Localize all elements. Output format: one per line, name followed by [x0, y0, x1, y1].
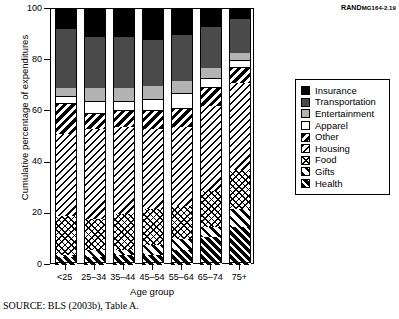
x-axis-tick [239, 265, 240, 270]
bar-segment-other[interactable] [55, 104, 77, 135]
bar-segment-housing[interactable] [142, 129, 164, 208]
bar-segment-health[interactable] [113, 255, 135, 265]
bar-segment-other[interactable] [171, 109, 193, 127]
legend-item-other[interactable]: Other [301, 131, 385, 143]
bar-segment-food[interactable] [171, 206, 193, 239]
plot-area [50, 8, 254, 264]
y-axis-tick-label: 40 [18, 157, 42, 166]
bar-segment-other[interactable] [142, 111, 164, 129]
bar-segment-transportation[interactable] [142, 40, 164, 86]
legend-swatch-entertainment-icon [301, 109, 310, 118]
legend-item-health[interactable]: Health [301, 178, 385, 190]
legend-label: Gifts [315, 167, 335, 177]
bar-segment-apparel[interactable] [229, 60, 251, 68]
bar-segment-entertainment[interactable] [171, 81, 193, 94]
bar-segment-gifts[interactable] [229, 209, 251, 227]
bar-segment-food[interactable] [200, 191, 222, 227]
bar-segment-entertainment[interactable] [229, 53, 251, 61]
bar-segment-entertainment[interactable] [142, 86, 164, 99]
bar-segment-entertainment[interactable] [55, 88, 77, 96]
bar-2534[interactable] [84, 9, 106, 263]
bar-segment-transportation[interactable] [55, 29, 77, 88]
bar-segment-health[interactable] [142, 255, 164, 265]
bar-segment-other[interactable] [84, 114, 106, 129]
x-axis-tick [210, 265, 211, 270]
legend-item-gifts[interactable]: Gifts [301, 166, 385, 178]
legend-item-apparel[interactable]: Apparel [301, 120, 385, 132]
bar-segment-insurance[interactable] [55, 9, 77, 29]
bar-segment-food[interactable] [55, 216, 77, 254]
bar-segment-apparel[interactable] [113, 101, 135, 111]
bar-segment-transportation[interactable] [113, 37, 135, 88]
legend-item-insurance[interactable]: Insurance [301, 85, 385, 97]
bar-segment-food[interactable] [84, 219, 106, 250]
bar-segment-apparel[interactable] [55, 96, 77, 104]
bar-segment-health[interactable] [84, 257, 106, 265]
bar-3544[interactable] [113, 9, 135, 263]
bar-25[interactable] [55, 9, 77, 263]
x-axis-title: Age group [50, 286, 254, 297]
bar-5564[interactable] [171, 9, 193, 263]
legend-swatch-insurance-icon [301, 86, 310, 95]
bar-segment-housing[interactable] [200, 106, 222, 190]
legend-item-transportation[interactable]: Transportation [301, 97, 385, 109]
legend-item-housing[interactable]: Housing [301, 143, 385, 155]
bar-segment-gifts[interactable] [55, 255, 77, 258]
bar-segment-food[interactable] [113, 214, 135, 250]
bar-segment-housing[interactable] [229, 83, 251, 170]
bar-segment-housing[interactable] [171, 127, 193, 206]
bar-segment-food[interactable] [142, 209, 164, 245]
bar-segment-health[interactable] [229, 227, 251, 265]
bar-segment-gifts[interactable] [171, 239, 193, 249]
bar-segment-other[interactable] [229, 68, 251, 83]
bar-segment-transportation[interactable] [200, 27, 222, 68]
bar-4554[interactable] [142, 9, 164, 263]
bar-segment-housing[interactable] [55, 134, 77, 216]
legend-item-entertainment[interactable]: Entertainment [301, 108, 385, 120]
bar-segment-gifts[interactable] [113, 250, 135, 255]
bar-segment-apparel[interactable] [200, 78, 222, 88]
bar-segment-transportation[interactable] [171, 35, 193, 81]
bar-segment-apparel[interactable] [171, 93, 193, 108]
y-axis-tick [44, 264, 50, 265]
bar-segment-apparel[interactable] [84, 101, 106, 114]
source-note: SOURCE: BLS (2003b), Table A. [3, 300, 139, 311]
bar-segment-insurance[interactable] [171, 9, 193, 35]
bar-segment-insurance[interactable] [113, 9, 135, 37]
bar-6574[interactable] [200, 9, 222, 263]
legend-swatch-food-icon [301, 156, 310, 165]
y-axis-tick-label: 0 [18, 260, 42, 269]
bar-segment-gifts[interactable] [200, 227, 222, 237]
bar-segment-gifts[interactable] [142, 245, 164, 255]
bar-segment-gifts[interactable] [84, 250, 106, 258]
bar-segment-health[interactable] [171, 250, 193, 265]
legend-label: Other [315, 132, 339, 142]
legend-label: Food [315, 155, 337, 165]
bar-segment-apparel[interactable] [142, 99, 164, 112]
legend-swatch-apparel-icon [301, 121, 310, 130]
bar-segment-other[interactable] [113, 111, 135, 126]
bar-segment-food[interactable] [229, 170, 251, 208]
figure-id-prefix: RAND [341, 4, 362, 11]
bar-segment-other[interactable] [200, 88, 222, 106]
bar-segment-insurance[interactable] [200, 9, 222, 27]
legend-label: Entertainment [315, 109, 374, 119]
bar-segment-insurance[interactable] [229, 9, 251, 19]
bar-segment-entertainment[interactable] [113, 88, 135, 101]
bar-segment-insurance[interactable] [84, 9, 106, 37]
legend-label: Insurance [315, 86, 357, 96]
bar-segment-transportation[interactable] [229, 19, 251, 52]
bar-segment-health[interactable] [200, 237, 222, 265]
bar-segment-housing[interactable] [84, 129, 106, 219]
legend-item-food[interactable]: Food [301, 155, 385, 167]
y-axis-tick-label: 60 [18, 106, 42, 115]
bar-segment-entertainment[interactable] [200, 68, 222, 78]
bar-75+[interactable] [229, 9, 251, 263]
bar-segment-housing[interactable] [113, 127, 135, 214]
bar-segment-transportation[interactable] [84, 37, 106, 88]
bar-segment-entertainment[interactable] [84, 88, 106, 101]
x-axis-tick [181, 265, 182, 270]
y-axis-tick-label: 100 [18, 4, 42, 13]
bar-segment-insurance[interactable] [142, 9, 164, 40]
bar-segment-health[interactable] [55, 257, 77, 265]
